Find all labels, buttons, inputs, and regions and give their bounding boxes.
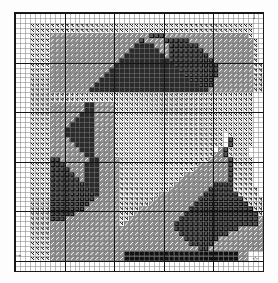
pattern-cells-layer bbox=[15, 13, 263, 271]
cross-stitch-chart[interactable]: ↓→☆ bbox=[14, 12, 264, 272]
chart-canvas: ↓→☆ bbox=[0, 0, 278, 283]
